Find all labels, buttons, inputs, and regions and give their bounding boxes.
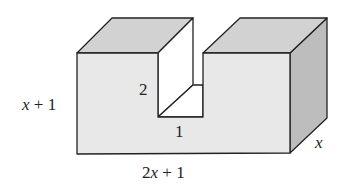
height-label: x + 1 — [21, 95, 56, 114]
depth-label: x — [314, 133, 323, 152]
notch-width-label: 1 — [175, 122, 184, 141]
width-label: 2x + 1 — [142, 163, 185, 182]
notch-height-label: 2 — [139, 80, 148, 99]
notched-box-diagram: x + 1 2 1 2x + 1 x — [0, 0, 344, 187]
